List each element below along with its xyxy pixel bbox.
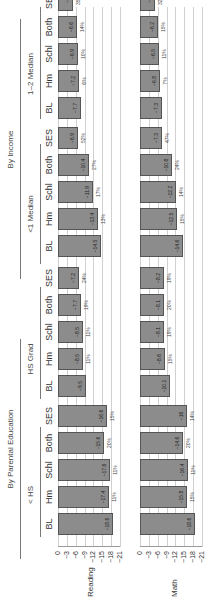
percent-label: 15% <box>189 487 195 507</box>
category-label-row: BLHmSchlBothSESBLHmSchlBothSESBLHmSchlBo… <box>44 0 58 599</box>
percent-label: 11% <box>190 460 196 480</box>
category-label: BL <box>44 372 54 400</box>
y-tick-label: −21 <box>198 551 205 569</box>
bar-value-label: −7.2 <box>70 268 76 288</box>
bar: −17.4 <box>58 486 109 508</box>
bar: −8.2 <box>140 267 164 289</box>
percent-label: 15% <box>167 349 173 369</box>
category-label: SES <box>44 264 54 292</box>
category-label: Hm <box>44 67 54 95</box>
percent-label: 27% <box>91 155 97 175</box>
percent-label: 15% <box>179 209 185 229</box>
y-tick-label: −3 <box>63 551 70 569</box>
bar: −7.7 <box>58 97 81 119</box>
bar-value-label: −13.4 <box>89 209 95 229</box>
bar: −6.5 <box>140 43 159 65</box>
subgroup-rule-1-2-median <box>40 7 41 119</box>
percent-label: 24% <box>174 155 180 175</box>
bar: −14.6 <box>140 432 183 454</box>
bar-value-label: −5 <box>64 0 70 10</box>
bar: −8.5 <box>58 321 83 343</box>
bar: −8.6 <box>140 348 165 370</box>
bar-value-label: −12.2 <box>167 182 173 202</box>
subgroup-label-1-2-median: 1–2 Median <box>26 4 35 144</box>
bar-value-label: −16 <box>178 406 184 426</box>
category-label: Schl <box>44 456 54 484</box>
category-label: Schl <box>44 40 54 68</box>
subgroup-rule-hs-grad <box>40 287 41 399</box>
group-rule-income <box>20 19 21 279</box>
bar: −14.5 <box>58 235 101 257</box>
bar-value-label: −8.2 <box>155 268 161 288</box>
percent-label: 14% <box>189 406 195 426</box>
bar-value-label: −8.5 <box>74 349 80 369</box>
percent-label: 10% <box>80 44 86 64</box>
category-label: Both <box>44 151 54 179</box>
y-tick-label: −12 <box>171 551 178 569</box>
bar-value-label: −10.4 <box>80 155 86 175</box>
percent-label: 15% <box>109 406 115 426</box>
category-label: Schl <box>44 318 54 346</box>
bar: −11.9 <box>58 181 93 203</box>
bar: −8.1 <box>140 294 164 316</box>
subgroup-label-lt-hs: < HS <box>26 425 35 565</box>
percent-label: 19% <box>166 322 172 342</box>
bar-value-label: −15.6 <box>95 433 101 453</box>
percent-label: 20% <box>166 295 172 315</box>
category-label: Hm <box>44 483 54 511</box>
category-label: BL <box>44 232 54 260</box>
bar-value-label: −14.6 <box>174 433 180 453</box>
row-label-reading: Reading <box>86 567 95 597</box>
percent-label: 19% <box>83 295 89 315</box>
category-label: SES <box>44 0 54 14</box>
bar-value-label: −7.3 <box>153 98 159 118</box>
y-tick-label: −6 <box>154 551 161 569</box>
bar-value-label: −17.6 <box>101 460 107 480</box>
percent-label: 6% <box>81 71 87 91</box>
bar-value-label: −10.8 <box>163 155 169 175</box>
percent-label: 11% <box>85 322 91 342</box>
category-label: Both <box>44 291 54 319</box>
percent-label: 11% <box>161 44 167 64</box>
bar-value-label: −7.7 <box>72 295 78 315</box>
y-tick-label: −21 <box>116 551 123 569</box>
bar: −5 <box>58 0 73 11</box>
y-tick-label: −15 <box>98 551 105 569</box>
category-label: Hm <box>44 205 54 233</box>
bar-value-label: −10.1 <box>161 376 167 396</box>
bar: −14.6 <box>140 235 183 257</box>
bar-value-label: −12.5 <box>168 209 174 229</box>
category-label: Both <box>44 13 54 41</box>
percent-label: 7% <box>162 71 168 91</box>
bar-value-label: −16.4 <box>179 460 185 480</box>
gridline <box>202 7 203 547</box>
bar: −8.1 <box>140 321 164 343</box>
y-tick-label: −9 <box>163 551 170 569</box>
bar: −7.3 <box>140 97 162 119</box>
row-label-math: Math <box>170 579 179 597</box>
category-label: BL <box>44 94 54 122</box>
percent-label: 14% <box>79 17 85 37</box>
percent-label: 32% <box>157 0 163 10</box>
group-label-income: By Income <box>6 0 15 299</box>
category-label: BL <box>44 510 54 538</box>
bar-value-label: −6.2 <box>149 17 155 37</box>
bar: −15.8 <box>140 486 187 508</box>
gridline <box>120 7 121 547</box>
bar-value-label: −6.5 <box>150 44 156 64</box>
bar-value-label: −17.4 <box>100 487 106 507</box>
bar-value-label: −14.6 <box>174 236 180 256</box>
bar: −15.6 <box>58 432 104 454</box>
bar: −12.5 <box>140 208 177 230</box>
y-tick-label: −18 <box>107 551 114 569</box>
subgroup-label-lt1-median: <1 Median <box>26 139 35 289</box>
bar-value-label: −6.9 <box>69 128 75 148</box>
bar: −7.2 <box>58 267 79 289</box>
bar: −18.6 <box>58 513 113 535</box>
bar-value-label: −5 <box>146 0 152 10</box>
percent-label: 52% <box>80 128 86 148</box>
percent-label: 11% <box>111 487 117 507</box>
percent-label: 14% <box>178 182 184 202</box>
subgroup-label-hs-grad: HS Grad <box>26 289 35 429</box>
group-label-parental-education: By Parental Education <box>6 319 15 579</box>
